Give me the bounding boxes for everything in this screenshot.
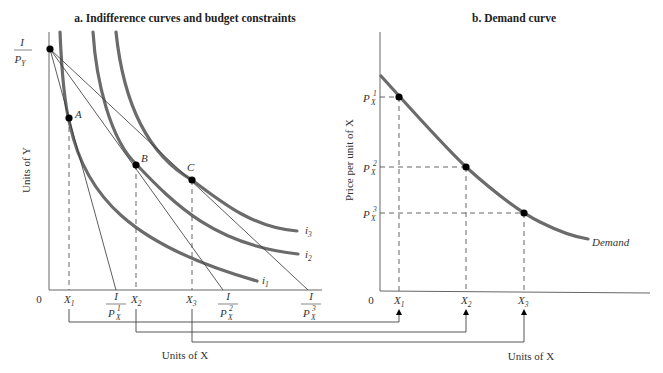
demand-point-3 (520, 209, 527, 216)
demand-label: Demand (591, 236, 630, 248)
tick-x1-b: X1 (393, 294, 404, 309)
panel-a-title: a. Indifference curves and budget constr… (74, 12, 296, 25)
svg-text:X: X (370, 168, 376, 177)
tick-x2-a: X2 (130, 293, 142, 308)
budget-line-2 (50, 49, 223, 290)
point-b (132, 161, 139, 168)
panel-b-y-label: Price per unit of X (343, 119, 355, 201)
indifference-curve-i2 (93, 32, 298, 254)
svg-text:1: 1 (117, 304, 121, 313)
panel-a-x-label: Units of X (162, 349, 209, 361)
panel-b-x-label: Units of X (508, 350, 555, 362)
svg-text:P: P (302, 307, 310, 319)
point-a (65, 114, 72, 121)
tick-px3: P 3 X (362, 205, 377, 223)
svg-text:P: P (362, 162, 370, 174)
svg-text:X: X (227, 313, 233, 322)
tick-i-over-px2: I P 2 X (218, 290, 238, 322)
connector-x3 (192, 309, 524, 342)
connector-x3-arrow-icon (521, 309, 527, 315)
svg-text:I: I (225, 290, 231, 302)
panel-b-x-axis (380, 291, 650, 293)
svg-text:X: X (115, 313, 121, 322)
tick-i-over-px1: I P 1 X (106, 290, 126, 322)
svg-text:X: X (370, 98, 376, 107)
demand-point-1 (395, 93, 402, 100)
svg-text:2: 2 (229, 304, 233, 313)
connector-x1-arrow-icon (396, 309, 402, 315)
panel-b-title: b. Demand curve (472, 12, 556, 24)
svg-text:X: X (310, 313, 316, 322)
tick-i-over-px3: I P 3 X (301, 290, 321, 322)
curve-label-i3: i3 (305, 224, 312, 239)
point-c-label: C (187, 161, 195, 173)
py-numerator: I (19, 36, 25, 48)
panel-b-origin: 0 (368, 294, 374, 306)
tick-px2: P 2 X (362, 159, 377, 177)
svg-text:3: 3 (311, 304, 316, 313)
budget-line-1 (50, 49, 116, 290)
tick-x3-a: X3 (185, 293, 197, 308)
connector-x2 (136, 309, 466, 332)
svg-text:I: I (113, 290, 119, 302)
point-py-intercept (46, 45, 53, 52)
svg-text:P: P (219, 307, 227, 319)
tick-x3-b: X3 (517, 294, 529, 309)
point-c (188, 176, 195, 183)
tick-x2-b: X2 (460, 294, 472, 309)
svg-text:P: P (107, 307, 115, 319)
point-a-label: A (74, 108, 82, 120)
demand-curve (381, 76, 588, 239)
panel-a-y-label: Units of Y (20, 147, 32, 193)
svg-text:1: 1 (373, 89, 377, 98)
curve-label-i2: i2 (305, 248, 312, 263)
tick-x1-a: X1 (63, 293, 74, 308)
indifference-curve-i1 (60, 32, 257, 281)
curve-label-i1: i1 (262, 274, 269, 289)
svg-text:3: 3 (372, 205, 377, 214)
demand-point-2 (462, 163, 469, 170)
figure: a. Indifference curves and budget constr… (0, 0, 663, 373)
connector-x2-arrow-icon (463, 309, 469, 315)
svg-text:P: P (362, 208, 370, 220)
tick-px1: P 1 X (362, 89, 377, 107)
svg-text:2: 2 (373, 159, 377, 168)
indifference-curve-i3 (116, 32, 297, 231)
py-denominator: PY (14, 53, 27, 68)
panel-a-origin: 0 (36, 293, 42, 305)
svg-text:X: X (370, 214, 376, 223)
svg-text:P: P (362, 92, 370, 104)
svg-text:I: I (308, 290, 314, 302)
point-b-label: B (141, 152, 148, 164)
